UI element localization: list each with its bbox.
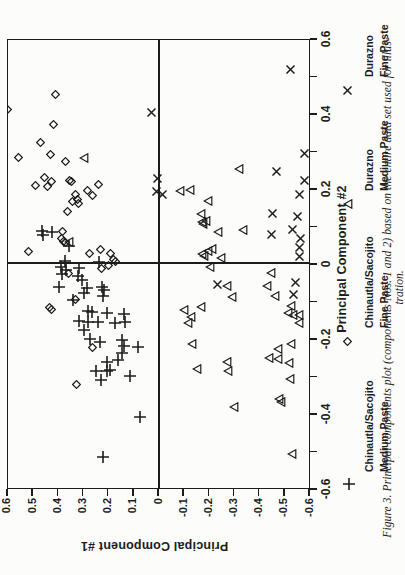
data-point-triangle (284, 358, 294, 368)
y-tick (107, 489, 109, 496)
data-point-diamond (61, 157, 70, 166)
data-point-cross (267, 230, 276, 239)
x-tick-label: 0.6 (319, 19, 333, 59)
data-point-cross (300, 149, 309, 158)
y-axis-title: Principal Component #1 (69, 538, 241, 553)
data-point-diamond (47, 305, 56, 314)
data-point-diamond (88, 343, 97, 352)
y-tick-label: -0.3 (227, 498, 240, 526)
y-tick-label: 0.2 (101, 498, 114, 526)
data-point-cross (272, 167, 281, 176)
x-tick (310, 113, 317, 115)
data-point-triangle (213, 227, 223, 237)
data-point-diamond (51, 90, 60, 99)
data-point-diamond (64, 269, 73, 278)
x-tick (310, 188, 317, 190)
y-tick (6, 489, 8, 496)
legend-label-line1: Chinautla/Sacojito (363, 236, 375, 328)
x-tick-label: 0 (319, 244, 333, 284)
data-point-cross (291, 278, 300, 287)
data-point-plus (53, 281, 65, 293)
data-point-diamond (46, 150, 55, 159)
data-point-triangle (266, 268, 276, 278)
x-tick-label: -0.6 (319, 469, 333, 509)
cross-marker-icon (343, 83, 355, 95)
data-point-cross (286, 65, 295, 74)
y-tick (132, 489, 134, 496)
data-point-cross (295, 253, 304, 262)
y-tick (308, 489, 310, 496)
x-tick (310, 151, 317, 153)
data-point-triangle (203, 197, 213, 207)
data-point-triangle (270, 291, 280, 301)
data-point-diamond (71, 295, 80, 304)
data-point-diamond (36, 139, 45, 148)
data-point-triangle (187, 339, 197, 349)
data-point-cross (153, 175, 162, 184)
x-tick-label: 0.2 (319, 169, 333, 209)
y-tick (82, 489, 84, 496)
x-tick-label: -0.4 (319, 394, 333, 434)
data-point-diamond (14, 154, 23, 163)
data-point-plus (97, 290, 109, 302)
x-tick (310, 451, 317, 453)
data-point-diamond (72, 380, 81, 389)
y-tick (283, 489, 285, 496)
y-tick (208, 489, 210, 496)
data-point-triangle (227, 292, 237, 302)
x-tick-label: -0.2 (319, 319, 333, 359)
data-point-plus (134, 412, 146, 424)
data-point-diamond (24, 247, 33, 256)
y-tick-label: 0.6 (0, 498, 13, 526)
y-tick-label: -0.2 (202, 498, 215, 526)
y-tick (258, 489, 260, 496)
data-point-triangle (287, 449, 297, 459)
data-point-triangle (79, 153, 89, 163)
y-tick-label: 0.4 (51, 498, 64, 526)
x-axis-title: Principal Component #2 (335, 164, 349, 354)
data-point-plus (119, 316, 131, 328)
data-point-triangle (273, 354, 283, 364)
data-point-cross (295, 190, 304, 199)
data-point-diamond (88, 191, 97, 200)
data-point-cross (289, 290, 298, 299)
data-point-cross (300, 176, 309, 185)
x-tick (310, 413, 317, 415)
y-tick-label: -0.5 (277, 498, 290, 526)
y-tick-label: 0.5 (26, 498, 39, 526)
data-point-diamond (74, 199, 83, 208)
pc1-zero-line (158, 40, 159, 488)
data-point-triangle (196, 302, 206, 312)
data-point-diamond (31, 181, 40, 190)
data-point-triangle (229, 402, 239, 412)
x-tick (310, 263, 317, 265)
data-point-cross (293, 212, 302, 221)
y-tick-label: -0.1 (177, 498, 190, 526)
data-point-triangle (175, 186, 185, 196)
data-point-triangle (234, 164, 244, 174)
data-point-cross (295, 243, 304, 252)
data-point-triangle (286, 339, 296, 349)
data-point-cross (158, 190, 167, 199)
x-tick (310, 338, 317, 340)
y-tick-label: 0.1 (126, 498, 139, 526)
y-tick (57, 489, 59, 496)
data-point-diamond (63, 208, 72, 217)
x-tick (310, 38, 317, 40)
data-point-cross (268, 209, 277, 218)
y-tick-label: -0.6 (303, 498, 316, 526)
y-tick-label: -0.4 (252, 498, 265, 526)
data-point-plus (92, 316, 104, 328)
figure-caption-line1: Figure 3. Principal components plot (com… (381, 0, 393, 575)
data-point-cross (147, 109, 156, 118)
data-point-triangle (192, 365, 202, 375)
y-tick (182, 489, 184, 496)
data-point-cross (296, 234, 305, 243)
data-point-triangle (276, 397, 286, 407)
rotated-figure: -0.6-0.4-0.200.20.40.6 0.60.50.40.30.20.… (0, 0, 405, 575)
data-point-diamond (97, 264, 106, 273)
data-point-diamond (85, 249, 94, 258)
data-point-triangle (216, 253, 226, 263)
data-point-triangle (285, 374, 295, 384)
scanned-figure-page: -0.6-0.4-0.200.20.40.6 0.60.50.40.30.20.… (0, 0, 405, 575)
